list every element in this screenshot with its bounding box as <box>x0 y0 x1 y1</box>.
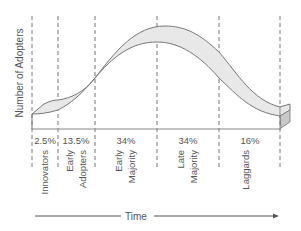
label-late-majority-line1: Late <box>175 150 186 169</box>
percent-innovators: 2.5% <box>34 135 56 146</box>
y-axis-label: Number of Adopters <box>14 29 25 118</box>
label-early-adopters-line2: Adopters <box>77 150 88 188</box>
label-early-majority-line1: Early <box>113 150 124 172</box>
segment-percentages: 2.5% 13.5% 34% 34% 16% <box>34 135 260 146</box>
label-innovators: Innovators <box>39 150 50 195</box>
percent-late-majority: 34% <box>178 135 198 146</box>
percent-laggards: 16% <box>240 135 260 146</box>
label-laggards: Laggards <box>240 150 251 190</box>
time-axis: Time <box>35 211 279 222</box>
label-late-majority-line2: Majority <box>188 150 199 184</box>
x-axis-label: Time <box>125 211 147 222</box>
percent-early-majority: 34% <box>116 135 136 146</box>
arrow-head-icon <box>273 214 279 219</box>
label-early-majority-line2: Majority <box>126 150 137 184</box>
percent-early-adopters: 13.5% <box>63 135 90 146</box>
adoption-curve-diagram: Number of Adopters 2.5% 13.5% 34% 34% 16… <box>0 0 301 231</box>
adoption-ribbon <box>32 26 290 116</box>
label-early-adopters-line1: Early <box>64 150 75 172</box>
